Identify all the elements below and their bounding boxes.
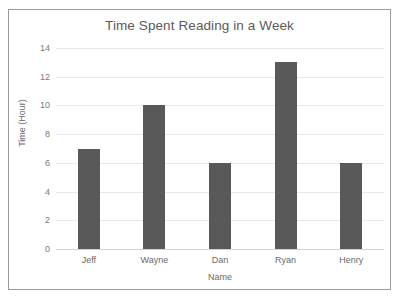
chart-title: Time Spent Reading in a Week [9, 18, 390, 33]
chart-frame: Time Spent Reading in a Week Time (Hour)… [8, 9, 391, 290]
x-tick-label: Dan [212, 255, 229, 265]
bar-group: Dan [187, 48, 253, 249]
y-tick-label: 6 [45, 158, 50, 168]
x-axis-title: Name [56, 272, 384, 282]
bar [143, 105, 165, 249]
bar-group: Wayne [122, 48, 188, 249]
bar [209, 163, 231, 249]
bar-series: JeffWayneDanRyanHenry [56, 48, 384, 249]
y-tick-label: 8 [45, 129, 50, 139]
gridline: 0 [56, 249, 384, 250]
bar [275, 62, 297, 249]
y-axis-title: Time (Hour) [17, 88, 27, 158]
bar-group: Henry [318, 48, 384, 249]
x-tick-label: Ryan [275, 255, 296, 265]
bar-group: Ryan [253, 48, 319, 249]
y-tick-label: 2 [45, 215, 50, 225]
y-tick-label: 4 [45, 187, 50, 197]
y-tick-label: 12 [40, 72, 50, 82]
bar-group: Jeff [56, 48, 122, 249]
y-tick-label: 10 [40, 100, 50, 110]
y-tick-label: 14 [40, 43, 50, 53]
x-tick-label: Jeff [82, 255, 96, 265]
plot-area: 02468101214 JeffWayneDanRyanHenry [56, 48, 384, 249]
x-tick-label: Wayne [141, 255, 169, 265]
y-tick-label: 0 [45, 244, 50, 254]
bar [340, 163, 362, 249]
bar [78, 149, 100, 250]
x-tick-label: Henry [339, 255, 363, 265]
